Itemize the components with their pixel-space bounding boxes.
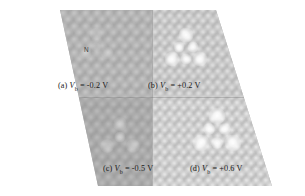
panel-c-subscript: b [120,169,123,175]
panel-c-caption: (c) Vb = -0.5 V [103,165,153,175]
panel-a-value: -0.2 V [87,81,108,90]
defect-blob [193,135,210,152]
stm-figure: N (a) Vb = -0.2 V (b) Vb = +0.2 V (c) Vb… [0,0,305,196]
panel-d-caption-prefix: (d) [190,164,200,173]
panel-c-equals: = [125,164,130,173]
panel-d-equals: = [212,164,217,173]
panel-c-caption-prefix: (c) [103,164,112,173]
panel-b-caption-prefix: (b) [148,81,158,90]
panel-d-caption: (d) Vb = +0.6 V [190,165,243,175]
panel-c-image [0,98,152,196]
defect-blob [115,132,126,143]
defect-blob [174,42,185,53]
defect-blob [90,28,103,41]
defect-blob [113,117,127,131]
panel-a-equals: = [80,81,85,90]
panel-b-subscript: b [165,86,168,92]
panel-d-value: +0.6 V [219,164,242,173]
panel-b-caption: (b) Vb = +0.2 V [148,82,201,92]
panel-a-subscript: b [75,86,78,92]
defect-blob [225,135,242,152]
defect-blob [126,139,140,153]
defect-blob [219,123,231,135]
defect-blob [193,52,208,67]
defect-blob [181,54,192,65]
defect-blob [165,52,180,67]
panel-a-caption: (a) Vb = -0.2 V [58,82,108,92]
defect-blob [211,137,223,149]
defect-blob [91,42,101,52]
panel-c-value: -0.5 V [132,164,153,173]
panel-d-subscript: b [207,169,210,175]
defect-blob [100,139,114,153]
defect-blob [203,123,215,135]
panel-a-caption-prefix: (a) [58,81,67,90]
defect-blob [209,108,226,125]
defect-blob [188,42,199,53]
panel-b-value: +0.2 V [177,81,200,90]
nitrogen-site-label: N [84,46,89,53]
panel-b-equals: = [170,81,175,90]
defect-blob [179,28,194,43]
defect-blob [101,47,114,60]
panel-d-image [152,98,305,196]
